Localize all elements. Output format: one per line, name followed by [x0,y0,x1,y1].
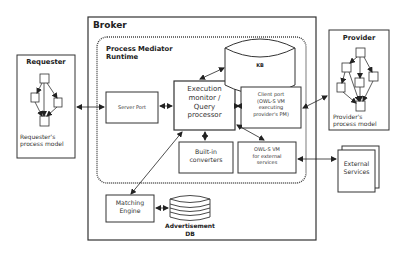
exec-monitor-line1: Execution [174,85,235,94]
provider-caption: Provider's process model [333,113,377,127]
matching-engine-line2: Engine [106,207,154,215]
client-port-label: Client port (OWL-S VM executing provider… [241,91,301,117]
converters-label: Built-in converters [179,148,233,164]
requester-caption-line1: Requester's [20,133,64,140]
client-port-line4: provider's PM) [241,111,301,118]
provider-caption-line1: Provider's [333,113,377,120]
owls-vm-line3: services [238,159,296,166]
requester-title: Requester [17,58,75,66]
converters-line1: Built-in [179,148,233,156]
provider-title: Provider [329,34,389,42]
arrow-clientport-provider [303,96,327,108]
matching-engine-label: Matching Engine [106,199,154,215]
runtime-title-line2: Runtime [106,53,173,61]
exec-monitor-label: Execution monitor / Query processor [174,85,235,120]
external-services-label: External Services [338,160,375,177]
external-services-line2: Services [338,168,375,176]
requester-process-graph [31,74,62,126]
converters-line2: converters [179,156,233,164]
server-port-label: Server Port [106,104,158,110]
runtime-title: Process Mediator Runtime [106,45,173,61]
matching-engine-line1: Matching [106,199,154,207]
exec-monitor-line3: Query [174,103,235,112]
provider-caption-line2: process model [333,120,377,127]
runtime-title-line1: Process Mediator [106,45,173,53]
requester-caption: Requester's process model [20,133,64,147]
adv-db-line2: DB [160,230,220,238]
adv-db-label: Advertisement DB [160,222,220,238]
kb-label: KB [225,62,295,68]
requester-caption-line2: process model [20,140,64,147]
arrow-exec-kb [200,68,224,79]
broker-title: Broker [93,20,127,31]
external-services-line1: External [338,160,375,168]
owls-vm-label: OWL-S VM for external services [238,146,296,166]
adv-db-line1: Advertisement [160,222,220,230]
exec-monitor-line2: monitor / [174,94,235,103]
arrow-exec-matching [131,132,182,194]
provider-process-graph [337,48,378,111]
exec-monitor-line4: processor [174,111,235,120]
adv-db-cylinder [170,196,210,221]
